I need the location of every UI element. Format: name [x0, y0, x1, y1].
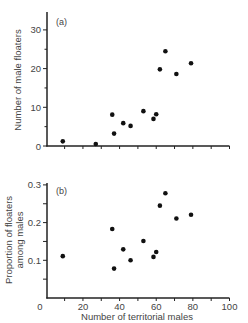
data-point — [60, 254, 65, 259]
panel-a-y-ticks: 0102030 — [30, 24, 47, 151]
y-tick-label: 0.1 — [28, 255, 41, 266]
data-point — [60, 139, 65, 144]
x-tick-label: 0 — [37, 301, 42, 312]
panel-a-y-axis-title: Number of male floaters — [12, 29, 23, 131]
data-point — [110, 227, 115, 232]
x-axis-title: Number of territorial males — [81, 311, 193, 322]
panel-a-label: (a) — [56, 17, 67, 27]
data-point — [121, 121, 126, 126]
data-point — [141, 109, 146, 114]
panel-b-scatter: 0.10.20.3 020406080100 (b) Proportion of… — [3, 179, 237, 322]
panel-a-scatter: 0102030 (a) Number of male floaters — [12, 12, 230, 152]
y-tick-label: 0.2 — [28, 217, 41, 228]
data-point — [151, 255, 156, 260]
panel-b-x-ticks: 020406080100 — [37, 298, 237, 312]
y-tick-label: 10 — [30, 102, 41, 113]
data-point — [154, 112, 159, 117]
data-point — [121, 247, 126, 252]
y-tick-label: 0 — [36, 141, 41, 152]
panel-b-y-axis-title-line1: Proportion of floaters — [3, 196, 14, 284]
data-point — [128, 124, 133, 129]
data-point — [112, 131, 117, 136]
data-point — [158, 67, 163, 72]
data-point — [154, 250, 159, 255]
panel-b-y-axis-title-line2: among males — [14, 211, 25, 268]
data-point — [110, 112, 115, 117]
y-tick-label: 20 — [30, 63, 41, 74]
data-point — [174, 216, 179, 221]
data-point — [158, 203, 163, 208]
y-tick-label: 30 — [30, 24, 41, 35]
scatter-figure: 0102030 (a) Number of male floaters 0.10… — [0, 0, 248, 323]
data-point — [151, 117, 156, 122]
panel-b-label: (b) — [56, 186, 67, 196]
data-point — [141, 239, 146, 244]
data-point — [112, 266, 117, 271]
data-point — [163, 191, 168, 196]
panel-b-data-points — [60, 191, 193, 271]
data-point — [189, 212, 194, 217]
panel-b-y-ticks: 0.10.20.3 — [28, 179, 47, 279]
data-point — [174, 72, 179, 77]
panel-a-data-points — [60, 49, 193, 146]
data-point — [189, 61, 194, 66]
x-tick-label: 100 — [222, 301, 238, 312]
data-point — [163, 49, 168, 54]
y-tick-label: 0.3 — [28, 179, 41, 190]
data-point — [128, 258, 133, 263]
data-point — [93, 142, 98, 147]
